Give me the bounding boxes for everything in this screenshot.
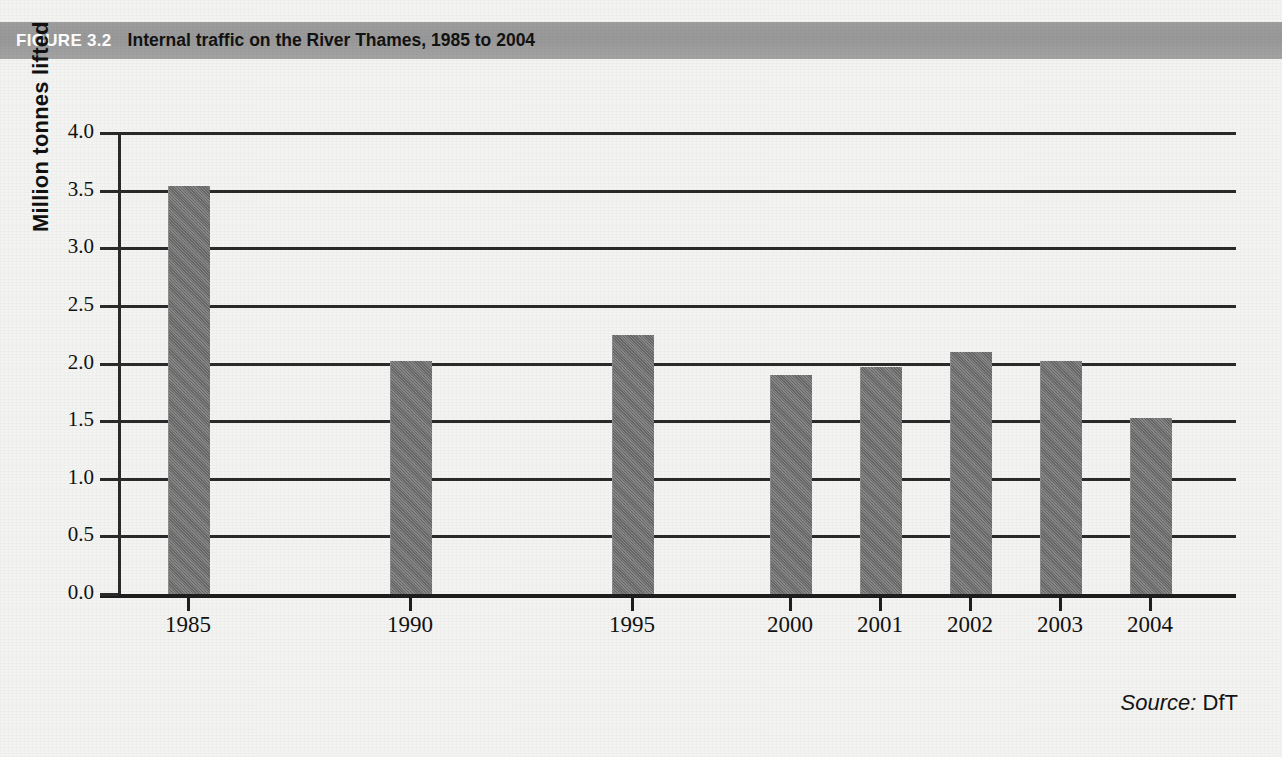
x-axis-tick-label: 1995 <box>577 612 687 638</box>
x-axis-tick-mark <box>187 598 190 611</box>
x-axis-tick-mark <box>1149 598 1152 611</box>
gridline <box>118 132 1236 135</box>
source-value: DfT <box>1203 690 1238 715</box>
x-axis-tick-mark <box>631 598 634 611</box>
bar <box>950 352 992 594</box>
y-axis-tick-mark <box>100 247 118 250</box>
bar <box>860 367 902 594</box>
bar <box>770 375 812 594</box>
y-axis-tick-mark <box>100 420 118 423</box>
y-axis-tick-label: 0.5 <box>24 522 94 547</box>
y-axis-tick-mark <box>100 190 118 193</box>
gridline <box>118 190 1236 193</box>
plot-area <box>118 133 1236 594</box>
x-axis-tick-mark <box>879 598 882 611</box>
x-axis-tick-label: 1985 <box>133 612 243 638</box>
x-axis-tick-mark <box>969 598 972 611</box>
x-axis-tick-label: 1990 <box>355 612 465 638</box>
y-axis-tick-label: 2.0 <box>24 350 94 375</box>
source-label: Source: <box>1121 690 1197 715</box>
x-axis-tick-mark <box>409 598 412 611</box>
y-axis-tick-mark <box>100 593 118 596</box>
y-axis-tick-label: 4.0 <box>24 119 94 144</box>
y-axis-tick-mark <box>100 478 118 481</box>
y-axis-tick-label: 1.5 <box>24 407 94 432</box>
x-axis-tick-mark <box>789 598 792 611</box>
y-axis-tick-label: 3.5 <box>24 177 94 202</box>
y-axis-tick-label: 3.0 <box>24 234 94 259</box>
x-axis-line <box>100 594 1236 598</box>
chart-plot: Million tonnes lifted 0.00.51.01.52.02.5… <box>0 0 1282 757</box>
y-axis-tick-mark <box>100 535 118 538</box>
bar <box>168 186 210 594</box>
y-axis-tick-label: 0.0 <box>24 580 94 605</box>
y-axis-tick-mark <box>100 132 118 135</box>
x-axis-tick-label: 2004 <box>1095 612 1205 638</box>
bar <box>1040 361 1082 594</box>
bar <box>390 361 432 594</box>
gridline <box>118 247 1236 250</box>
y-axis-tick-mark <box>100 363 118 366</box>
y-axis-tick-label: 2.5 <box>24 292 94 317</box>
bar <box>1130 418 1172 594</box>
figure-container: FIGURE 3.2 Internal traffic on the River… <box>0 0 1282 757</box>
bar <box>612 335 654 594</box>
source-note: Source: DfT <box>1121 690 1238 716</box>
gridline <box>118 305 1236 308</box>
x-axis-tick-mark <box>1059 598 1062 611</box>
y-axis-tick-label: 1.0 <box>24 465 94 490</box>
y-axis-tick-mark <box>100 305 118 308</box>
